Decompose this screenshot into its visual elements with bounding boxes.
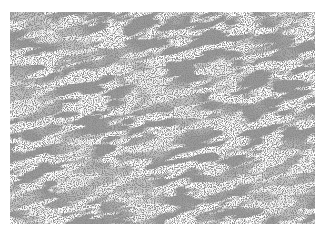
texture-image [10, 12, 315, 224]
micrograph-texture [10, 12, 315, 224]
